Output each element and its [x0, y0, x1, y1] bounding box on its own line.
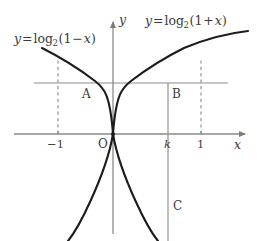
curve-left-label-base: 2	[53, 38, 58, 48]
curve-left-label: y=log2(1−x)	[14, 33, 96, 46]
curve-left-label-operator: −	[71, 31, 83, 46]
curve-right-label-close: )	[222, 13, 227, 28]
tick-label-k: k	[164, 139, 171, 151]
curve-left-label-fn: log	[34, 31, 54, 46]
curve-right-label: y=log2(1+x)	[145, 15, 227, 28]
curve-right-label-base: 2	[184, 20, 189, 30]
origin-label: O	[98, 138, 108, 150]
curve-right-label-equals: =	[152, 13, 164, 28]
curve-left-label-variable: x	[84, 31, 91, 46]
tick-label-minus-one: −1	[47, 139, 64, 151]
point-label-b: B	[172, 88, 181, 100]
curve-log2-one-plus-x	[68, 31, 248, 241]
curve-right-label-y: y	[145, 13, 152, 28]
curve-left-label-close: )	[91, 31, 96, 46]
curve-left-label-open: (1	[59, 31, 72, 46]
tick-label-one: 1	[197, 139, 204, 151]
curve-right-label-open: (1	[190, 13, 203, 28]
log-curves-figure: y=log2(1−x) y=log2(1+x) y x O −1 k 1 A B…	[0, 0, 261, 241]
point-label-c: C	[173, 200, 182, 212]
curve-left-label-equals: =	[21, 31, 33, 46]
curve-right-label-variable: x	[215, 13, 222, 28]
curve-right-label-fn: log	[165, 13, 185, 28]
curve-right-label-operator: +	[202, 13, 214, 28]
x-axis-label: x	[234, 139, 241, 152]
curve-left-label-y: y	[14, 31, 21, 46]
point-label-a: A	[82, 88, 91, 100]
y-axis-label: y	[119, 14, 126, 27]
origin-point	[111, 132, 115, 136]
